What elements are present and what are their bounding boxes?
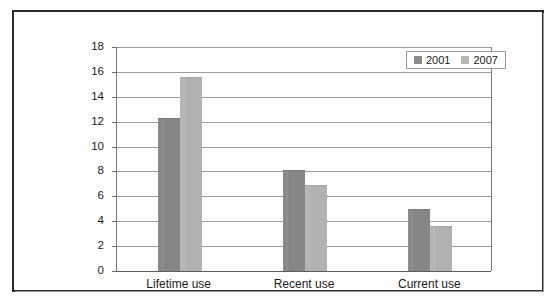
y-axis-tick-label: 8 <box>64 166 104 178</box>
y-axis-tick-mark <box>112 97 117 98</box>
y-axis-tick-mark <box>112 246 117 247</box>
y-axis-tick-label: 2 <box>64 240 104 252</box>
x-axis-label-lifetime-use: Lifetime use <box>116 278 241 290</box>
legend-swatch-2007 <box>461 56 469 64</box>
legend-label-2001: 2001 <box>426 55 450 66</box>
gridline <box>117 271 491 272</box>
y-axis-tick-mark <box>112 122 117 123</box>
gridline <box>117 72 491 73</box>
bar-2007-recent-use <box>305 185 327 271</box>
y-axis-tick-mark <box>112 72 117 73</box>
y-axis-tick-mark <box>112 171 117 172</box>
bar-2001-lifetime-use <box>158 118 180 271</box>
y-axis-tick-mark <box>112 196 117 197</box>
gridline <box>117 97 491 98</box>
y-axis-tick-mark <box>112 271 117 272</box>
plot-area <box>116 47 492 271</box>
y-axis-tick-mark <box>112 221 117 222</box>
y-axis-tick-label: 16 <box>64 66 104 78</box>
gridline <box>117 47 491 48</box>
legend-swatch-2001 <box>414 56 422 64</box>
bar-2007-lifetime-use <box>180 77 202 271</box>
y-axis-tick-label: 0 <box>64 265 104 277</box>
y-axis-tick-label: 18 <box>64 41 104 53</box>
legend-entry-2007: 2007 <box>461 55 497 66</box>
figure-frame: 024681012141618 Lifetime useRecent useCu… <box>12 10 544 292</box>
bar-2007-current-use <box>430 226 452 271</box>
x-axis-label-current-use: Current use <box>367 278 492 290</box>
bar-2001-current-use <box>408 209 430 271</box>
y-axis-tick-label: 10 <box>64 141 104 153</box>
x-axis-label-recent-use: Recent use <box>241 278 366 290</box>
y-axis-tick-label: 6 <box>64 191 104 203</box>
legend-entry-2001: 2001 <box>414 55 450 66</box>
chart-legend: 20012007 <box>406 51 506 69</box>
y-axis-tick-mark <box>112 147 117 148</box>
y-axis-tick-mark <box>112 47 117 48</box>
y-axis-tick-label: 14 <box>64 91 104 103</box>
figure-container: 024681012141618 Lifetime useRecent useCu… <box>0 0 554 303</box>
y-axis-tick-label: 12 <box>64 116 104 128</box>
bar-2001-recent-use <box>283 170 305 271</box>
y-axis-tick-label: 4 <box>64 215 104 227</box>
legend-label-2007: 2007 <box>473 55 497 66</box>
